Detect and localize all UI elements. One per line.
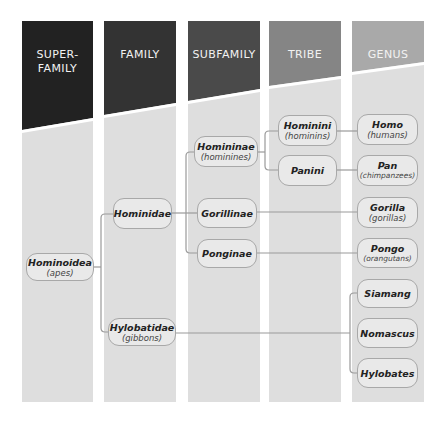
node-common-name: (gorillas) <box>369 213 406 223</box>
node-common-name: (humans) <box>367 130 408 140</box>
node-common-name: (gibbons) <box>122 333 162 343</box>
node-pongo: Pongo (orangutans) <box>357 238 418 268</box>
bracket-gibbon-genera <box>350 293 357 373</box>
node-name: Pongo <box>371 243 405 254</box>
node-gorilla: Gorilla (gorillas) <box>357 197 418 228</box>
node-hominini: Hominini (hominins) <box>278 115 337 146</box>
node-pan: Pan (chimpanzees) <box>357 155 418 186</box>
node-name: Homininae <box>197 141 254 152</box>
node-name: Gorilla <box>370 202 405 213</box>
node-panini: Panini <box>278 155 337 186</box>
node-common-name: (hominins) <box>285 131 330 141</box>
node-common-name: (chimpanzees) <box>360 171 415 181</box>
node-gorillinae: Gorillinae <box>197 198 257 228</box>
node-common-name: (apes) <box>47 268 74 278</box>
node-name: Ponginae <box>202 248 252 259</box>
node-name: Pan <box>378 160 398 171</box>
node-name: Hominoidea <box>28 257 92 268</box>
node-ponginae: Ponginae <box>197 239 257 268</box>
bracket-families <box>101 214 113 332</box>
bracket-subfamilies <box>186 152 197 253</box>
node-nomascus: Nomascus <box>357 318 418 348</box>
node-name: Hominini <box>284 120 332 131</box>
node-common-name: (hominines) <box>201 152 252 162</box>
node-homo: Homo (humans) <box>357 114 418 145</box>
node-hominoidea: Hominoidea (apes) <box>26 253 94 281</box>
node-name: Hylobatidae <box>110 322 175 333</box>
node-name: Panini <box>291 165 324 176</box>
node-name: Gorillinae <box>201 208 253 219</box>
node-common-name: (orangutans) <box>363 254 412 264</box>
node-name: Homo <box>372 119 403 130</box>
node-name: Hylobates <box>361 368 415 379</box>
node-homininae: Homininae (hominines) <box>194 136 258 167</box>
taxonomy-diagram: SUPER- FAMILY FAMILY SUBFAMILY TRIBE GEN… <box>0 0 445 421</box>
node-name: Siamang <box>364 288 410 299</box>
node-hylobates: Hylobates <box>357 358 418 388</box>
node-name: Hominidae <box>114 208 171 219</box>
node-siamang: Siamang <box>357 279 418 308</box>
node-name: Nomascus <box>360 328 415 339</box>
node-hylobatidae: Hylobatidae (gibbons) <box>108 318 176 346</box>
bracket-tribes <box>265 131 278 170</box>
node-hominidae: Hominidae <box>113 198 172 229</box>
